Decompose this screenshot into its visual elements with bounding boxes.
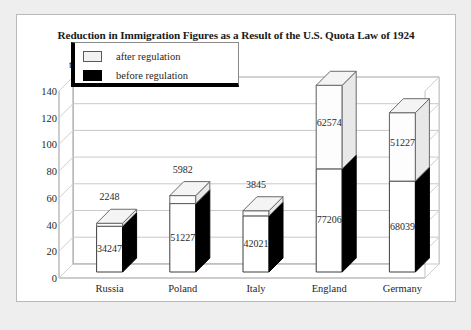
legend-entry-before: before regulation [83,66,188,84]
x-axis-category-label: Germany [357,283,447,294]
legend-label-before: before regulation [116,70,188,81]
legend-swatch-after-icon [83,51,102,62]
legend-entry-after: after regulation [83,47,180,65]
legend-label-after: after regulation [116,51,180,62]
legend-swatch-before-icon [83,70,102,81]
legend: after regulation before regulation [71,42,239,87]
chart-figure: Reduction in Immigration Figures as a Re… [16,14,456,302]
